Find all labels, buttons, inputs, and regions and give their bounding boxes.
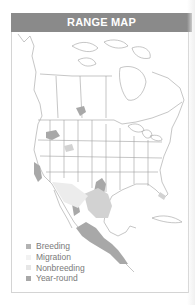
range-map-title: RANGE MAP [11, 13, 192, 32]
nonbreeding-swatch-icon [26, 265, 31, 270]
legend-item-breeding: Breeding [26, 241, 85, 252]
nonbreeding-range [64, 144, 166, 218]
year-round-swatch-icon [26, 276, 31, 281]
page-edge-shadow [187, 0, 195, 305]
legend-label: Migration [36, 252, 71, 263]
breeding-swatch-icon [26, 244, 31, 249]
legend-item-migration: Migration [26, 252, 85, 263]
map-legend: Breeding Migration Nonbreeding Year-roun… [26, 241, 85, 284]
legend-item-nonbreeding: Nonbreeding [26, 263, 85, 274]
legend-label: Nonbreeding [36, 263, 85, 274]
migration-swatch-icon [26, 255, 31, 260]
legend-item-year-round: Year-round [26, 273, 85, 284]
migration-range [52, 182, 88, 208]
legend-label: Year-round [36, 273, 78, 284]
legend-label: Breeding [36, 241, 70, 252]
